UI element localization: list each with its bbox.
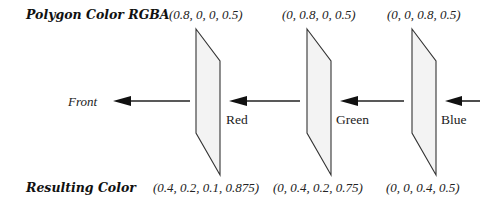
polygon-color-heading: Polygon Color RGBA [25, 7, 170, 22]
green-to-red-arrow [340, 96, 404, 106]
blue-polygon [412, 29, 436, 175]
green-polygon-rgba: (0, 0.8, 0, 0.5) [282, 7, 356, 22]
front-label: Front [67, 94, 98, 109]
green-polygon [307, 29, 331, 175]
green-result-rgba: (0, 0.4, 0.2, 0.75) [273, 180, 363, 195]
red-polygon-label: Red [226, 112, 248, 127]
blue-result-rgba: (0, 0, 0.4, 0.5) [386, 180, 460, 195]
red-polygon [196, 29, 220, 175]
blue-polygon-rgba: (0, 0, 0.8, 0.5) [387, 7, 461, 22]
blending-diagram: Polygon Color RGBA Resulting Color (0.8,… [0, 0, 500, 202]
red-result-rgba: (0.4, 0.2, 0.1, 0.875) [153, 180, 259, 195]
resulting-color-heading: Resulting Color [25, 180, 137, 195]
incoming-arrow [445, 96, 480, 106]
blue-polygon-label: Blue [441, 112, 467, 127]
front-arrow [113, 96, 190, 106]
green-polygon-label: Green [336, 112, 369, 127]
red-to-front-arrow [229, 96, 300, 106]
red-polygon-rgba: (0.8, 0, 0, 0.5) [169, 7, 243, 22]
